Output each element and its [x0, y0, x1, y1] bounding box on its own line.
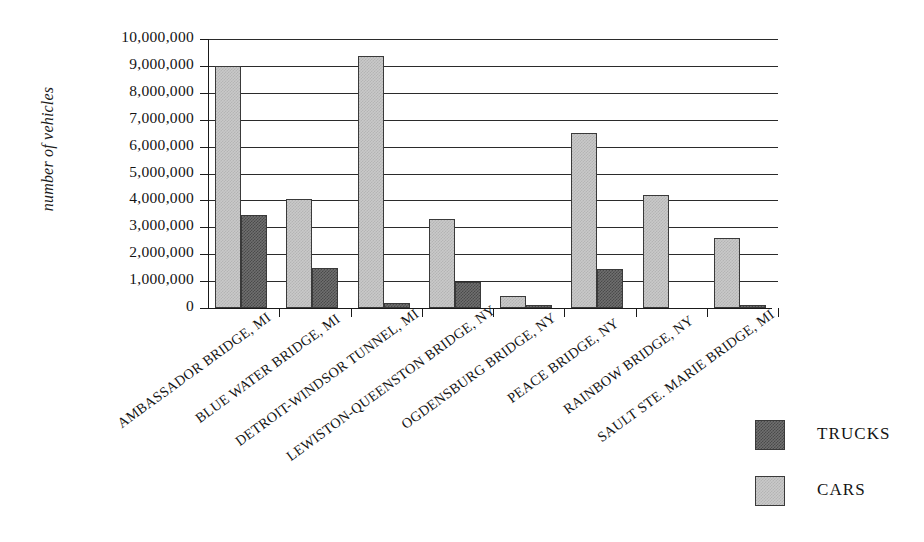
bar-cars: [429, 219, 455, 308]
y-axis-tick-label: 5,000,000: [129, 163, 194, 181]
y-axis-tick-label: 7,000,000: [129, 109, 194, 127]
y-axis-tick-label: 1,000,000: [129, 270, 194, 288]
bar-cars: [643, 195, 669, 308]
bar-cars: [215, 66, 241, 308]
y-axis-tick-label: 3,000,000: [129, 216, 194, 234]
x-axis-tick: [778, 308, 779, 317]
legend-swatch-trucks: [755, 420, 785, 450]
y-axis-title: number of vehicles: [39, 59, 57, 239]
y-axis-tick: [200, 308, 209, 309]
bar-cars: [500, 296, 526, 308]
y-axis-tick-label: 2,000,000: [129, 243, 194, 261]
bar-trucks: [241, 215, 267, 308]
x-axis-tick: [564, 308, 565, 317]
legend-swatch-cars: [755, 476, 785, 506]
bar-trucks: [526, 305, 552, 308]
x-axis-tick: [351, 308, 352, 317]
bar-trucks: [740, 305, 766, 308]
x-axis-tick: [279, 308, 280, 317]
y-axis-tick-label: 4,000,000: [129, 189, 194, 207]
bar-trucks: [384, 303, 410, 308]
bar-cars: [286, 199, 312, 308]
y-axis-tick-label: 6,000,000: [129, 136, 194, 154]
y-axis-tick-label: 10,000,000: [121, 28, 194, 46]
bar-cars: [714, 238, 740, 308]
bar-trucks: [597, 269, 623, 308]
y-axis-tick-label: 8,000,000: [129, 82, 194, 100]
y-axis-tick-label: 9,000,000: [129, 55, 194, 73]
bar-cars: [358, 56, 384, 308]
x-axis-tick: [707, 308, 708, 317]
bar-chart: number of vehicles 01,000,0002,000,0003,…: [0, 0, 924, 542]
y-axis-tick-label: 0: [186, 297, 194, 315]
x-axis-tick: [636, 308, 637, 317]
legend-label: TRUCKS: [817, 424, 891, 444]
plot-area: [208, 39, 778, 308]
x-axis-category-label: RAINBOW BRIDGE, NY: [560, 312, 697, 418]
bar-trucks: [312, 268, 338, 308]
bar-cars: [571, 133, 597, 308]
legend-label: CARS: [817, 480, 866, 500]
bar-trucks: [455, 282, 481, 308]
x-axis-tick: [422, 308, 423, 317]
